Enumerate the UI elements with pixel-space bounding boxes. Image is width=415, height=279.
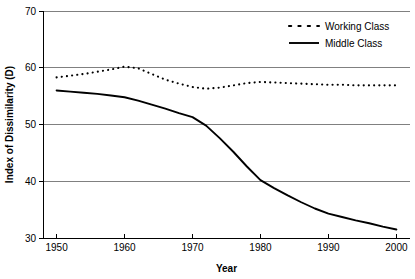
x-tick-label-1970: 1970 — [181, 242, 204, 253]
y-axis-title: Index of Dissimilarity (D) — [4, 66, 15, 183]
x-tick-label-1990: 1990 — [317, 242, 340, 253]
y-tick-label-50: 50 — [25, 119, 37, 130]
y-tick-label-40: 40 — [25, 176, 37, 187]
line-chart: 3040506070195019601970198019902000Index … — [0, 0, 415, 279]
x-tick-label-2000: 2000 — [385, 242, 408, 253]
x-tick-label-1960: 1960 — [113, 242, 136, 253]
legend-item-middle-class: Middle Class — [289, 38, 382, 49]
chart-container: 3040506070195019601970198019902000Index … — [0, 0, 415, 279]
series-line-working-class — [57, 67, 397, 89]
y-tick-label-60: 60 — [25, 62, 37, 73]
y-tick-label-30: 30 — [25, 233, 37, 244]
legend-label: Middle Class — [325, 38, 382, 49]
y-tick-label-70: 70 — [25, 6, 37, 17]
x-axis-title: Year — [216, 263, 237, 274]
x-tick-label-1980: 1980 — [249, 242, 272, 253]
legend-label: Working Class — [325, 21, 389, 32]
series-line-middle-class — [57, 90, 397, 229]
x-tick-label-1950: 1950 — [45, 242, 68, 253]
legend-item-working-class: Working Class — [289, 21, 389, 32]
